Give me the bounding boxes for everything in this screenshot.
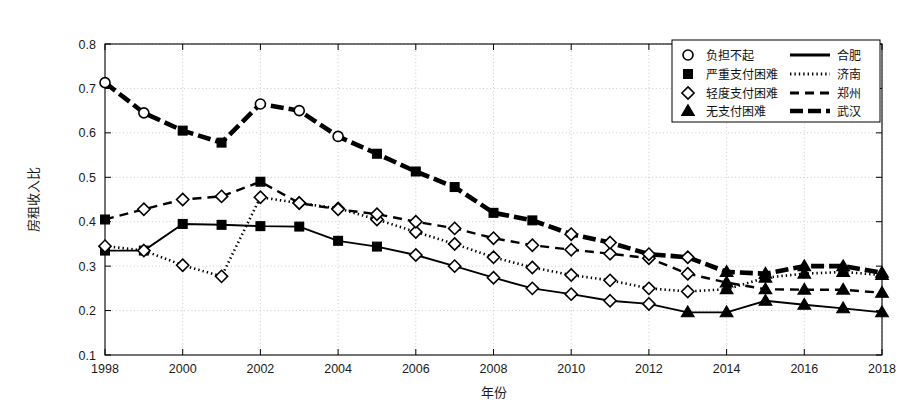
- series-济南-pt-11-diamond-marker: [526, 261, 538, 273]
- x-axis-title: 年份: [481, 385, 507, 400]
- series-武汉-pt-13-diamond-marker: [604, 236, 616, 248]
- rent-income-ratio-line-chart: 0.10.20.30.40.50.60.70.81998200020022004…: [0, 0, 905, 406]
- legend-label-严重支付困难: 严重支付困难: [706, 68, 778, 82]
- series-武汉-pt-6-circle-marker: [333, 131, 343, 141]
- series-郑州-pt-9-diamond-marker: [449, 222, 461, 234]
- x-tick-label-10: 2018: [868, 362, 896, 376]
- x-tick-label-9: 2016: [790, 362, 818, 376]
- series-合肥-pt-11-diamond-marker: [526, 282, 538, 294]
- series-郑州-pt-10-diamond-marker: [487, 232, 499, 244]
- x-tick-label-2: 2002: [246, 362, 274, 376]
- series-合肥-pt-17-triangle-marker: [759, 294, 772, 305]
- x-tick-label-4: 2006: [402, 362, 430, 376]
- series-郑州-pt-2-diamond-marker: [177, 193, 189, 205]
- series-合肥-pt-8-diamond-marker: [410, 249, 422, 261]
- series-济南-pt-15-diamond-marker: [682, 285, 694, 297]
- series-郑州-pt-3-diamond-marker: [215, 190, 227, 202]
- x-tick-label-5: 2008: [480, 362, 508, 376]
- series-郑州-pt-6-diamond-marker: [332, 203, 344, 215]
- x-tick-label-1: 2000: [169, 362, 197, 376]
- series-郑州-pt-15-diamond-marker: [682, 268, 694, 280]
- series-武汉-pt-15-diamond-marker: [682, 251, 694, 263]
- x-tick-label-7: 2012: [635, 362, 663, 376]
- series-合肥-pt-4-square-marker: [256, 222, 265, 231]
- series-武汉-pt-11-square-marker: [528, 216, 537, 225]
- series-武汉-pt-5-circle-marker: [294, 106, 304, 116]
- series-郑州-pt-4-square-marker: [256, 177, 265, 186]
- legend-label-负担不起: 负担不起: [706, 49, 754, 63]
- x-tick-label-6: 2010: [557, 362, 585, 376]
- series-武汉-pt-12-diamond-marker: [565, 228, 577, 240]
- series-郑州-pt-1-diamond-marker: [138, 203, 150, 215]
- y-tick-label-7: 0.8: [79, 38, 96, 52]
- series-合肥-pt-14-diamond-marker: [643, 298, 655, 310]
- series-济南-pt-12-diamond-marker: [565, 269, 577, 281]
- series-合肥-pt-2-square-marker: [178, 220, 187, 229]
- series-郑州-pt-11-diamond-marker: [526, 239, 538, 251]
- series-武汉-pt-8-square-marker: [411, 167, 420, 176]
- series-济南-pt-9-diamond-marker: [449, 238, 461, 250]
- chart-canvas: 0.10.20.30.40.50.60.70.81998200020022004…: [0, 0, 905, 406]
- legend-city-武汉: 武汉: [837, 105, 861, 119]
- legend-city-郑州: 郑州: [837, 86, 861, 101]
- y-tick-label-6: 0.7: [79, 82, 96, 96]
- y-axis-title: 房租收入比: [26, 167, 41, 232]
- series-济南-pt-4-diamond-marker: [254, 191, 266, 203]
- series-合肥-pt-5-square-marker: [295, 222, 304, 231]
- legend-label-无支付困难: 无支付困难: [706, 105, 766, 119]
- chart-root: 0.10.20.30.40.50.60.70.81998200020022004…: [0, 0, 905, 406]
- series-郑州-pt-12-diamond-marker: [565, 244, 577, 256]
- y-tick-label-3: 0.4: [79, 215, 96, 229]
- series-武汉-pt-3-square-marker: [217, 138, 226, 147]
- x-tick-label-8: 2014: [713, 362, 741, 376]
- series-合肥-pt-10-diamond-marker: [487, 272, 499, 284]
- y-tick-label-5: 0.6: [79, 126, 96, 140]
- series-济南-pt-10-diamond-marker: [487, 251, 499, 263]
- series-武汉-pt-7-square-marker: [373, 149, 382, 158]
- series-武汉-pt-10-square-marker: [489, 208, 498, 217]
- legend-city-合肥: 合肥: [837, 48, 861, 63]
- series-济南-pt-14-diamond-marker: [643, 282, 655, 294]
- y-tick-label-0: 0.1: [79, 349, 96, 363]
- series-合肥-pt-12-diamond-marker: [565, 288, 577, 300]
- series-郑州-pt-5-diamond-marker: [293, 197, 305, 209]
- series-郑州-pt-0-square-marker: [101, 215, 110, 224]
- series-武汉-pt-4-circle-marker: [255, 99, 265, 109]
- x-tick-label-0: 1998: [91, 362, 119, 376]
- series-武汉-pt-9-square-marker: [450, 183, 459, 192]
- y-tick-label-1: 0.2: [79, 304, 96, 318]
- series-武汉-pt-0-circle-marker: [100, 78, 110, 88]
- series-济南-pt-13-diamond-marker: [604, 274, 616, 286]
- series-武汉-pt-1-circle-marker: [139, 108, 149, 118]
- x-tick-label-3: 2004: [324, 362, 352, 376]
- legend-city-济南: 济南: [837, 67, 861, 82]
- legend-marker-square-square-marker: [684, 70, 693, 79]
- series-合肥-pt-7-square-marker: [373, 242, 382, 251]
- series-济南-pt-2-diamond-marker: [177, 259, 189, 271]
- series-郑州-pt-8-diamond-marker: [410, 216, 422, 228]
- y-tick-label-4: 0.5: [79, 171, 96, 185]
- series-郑州-pt-20-triangle-marker: [876, 287, 889, 298]
- series-济南-pt-3-diamond-marker: [215, 270, 227, 282]
- series-合肥-pt-9-diamond-marker: [449, 260, 461, 272]
- y-tick-label-2: 0.3: [79, 260, 96, 274]
- series-武汉-pt-2-square-marker: [178, 126, 187, 135]
- series-合肥-pt-3-square-marker: [217, 220, 226, 229]
- legend-label-轻度支付困难: 轻度支付困难: [706, 86, 778, 101]
- series-合肥-pt-13-diamond-marker: [604, 295, 616, 307]
- series-合肥-pt-6-square-marker: [334, 236, 343, 245]
- legend-marker-circle-circle-marker: [683, 50, 693, 60]
